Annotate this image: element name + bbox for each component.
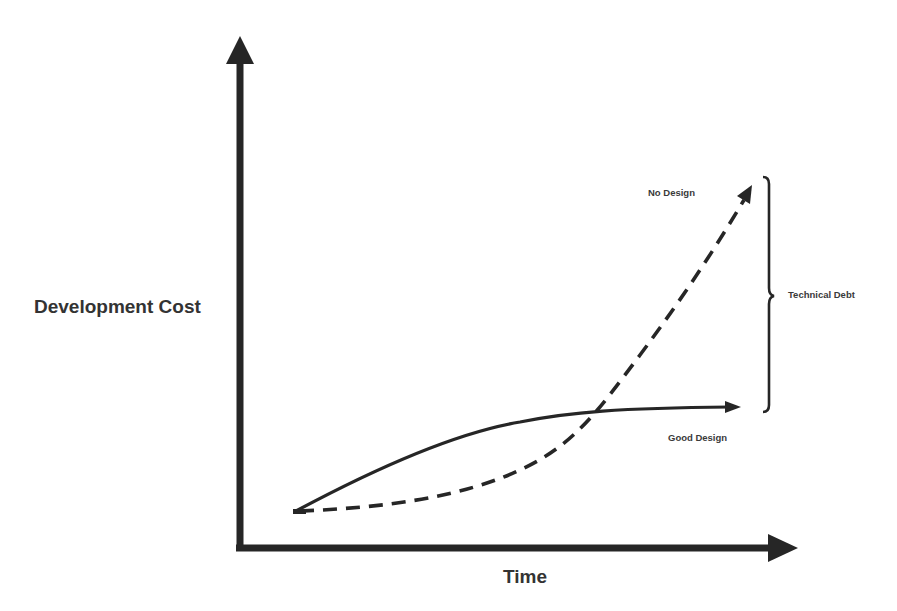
good-design-curve (296, 401, 741, 511)
y-axis-label: Development Cost (34, 296, 201, 318)
origin-cap (293, 509, 306, 514)
y-axis-arrowhead-icon (226, 36, 254, 64)
technical-debt-label: Technical Debt (788, 289, 855, 300)
y-axis (226, 36, 254, 550)
no-design-curve (300, 185, 752, 511)
good-design-arrowhead-icon (725, 401, 741, 413)
technical-debt-brace-icon (763, 177, 774, 412)
x-axis (236, 534, 798, 562)
no-design-label: No Design (648, 187, 695, 198)
x-axis-arrowhead-icon (768, 534, 798, 562)
good-design-label: Good Design (668, 432, 727, 443)
x-axis-label: Time (503, 566, 547, 588)
